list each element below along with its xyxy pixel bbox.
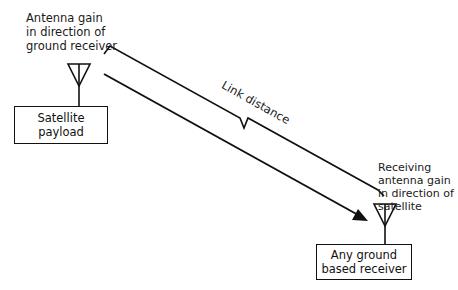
receiver-antenna-label: Receiving antenna gain in direction of s… — [378, 161, 454, 213]
label-line: Antenna gain — [26, 11, 117, 25]
label-line: Receiving — [378, 161, 454, 174]
label-line: in direction of — [378, 187, 454, 200]
box-line: payload — [15, 125, 107, 139]
label-line: in direction of — [26, 25, 117, 39]
box-line: Satellite — [15, 111, 107, 125]
label-line: satellite — [378, 200, 454, 213]
ground-receiver-box: Any ground based receiver — [316, 244, 412, 280]
label-line: antenna gain — [378, 174, 454, 187]
link-budget-diagram: Antenna gain in direction of ground rece… — [0, 0, 458, 290]
satellite-antenna-icon — [68, 64, 90, 106]
box-line: Any ground — [317, 248, 411, 262]
satellite-payload-box: Satellite payload — [14, 106, 108, 144]
satellite-antenna-label: Antenna gain in direction of ground rece… — [26, 11, 117, 53]
box-line: based receiver — [317, 262, 411, 276]
label-line: ground receiver — [26, 39, 117, 53]
link-distance-brace — [104, 46, 384, 196]
